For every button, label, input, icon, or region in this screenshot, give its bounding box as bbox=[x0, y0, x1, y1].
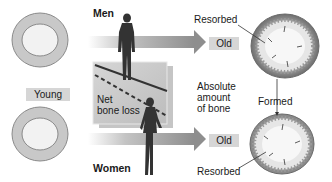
resorbed-label-bottom: Resorbed bbox=[197, 166, 240, 177]
formed-label: Formed bbox=[258, 96, 292, 107]
old-bone-top bbox=[251, 14, 319, 78]
young-tag: Young bbox=[26, 88, 70, 101]
net-bone-loss-line1: Net bbox=[97, 94, 113, 105]
absolute-amount-line1: Absolute bbox=[197, 81, 236, 92]
resorbed-label-top: Resorbed bbox=[194, 14, 237, 25]
women-label: Women bbox=[93, 163, 131, 174]
absolute-amount-line2: amount bbox=[197, 92, 230, 103]
old-tag-bottom: Old bbox=[209, 134, 239, 147]
net-bone-loss-line2: bone loss bbox=[97, 105, 140, 116]
absolute-amount-line3: of bone bbox=[197, 103, 230, 114]
old-bone-bottom bbox=[250, 114, 314, 174]
men-label: Men bbox=[93, 8, 114, 19]
old-tag-top: Old bbox=[209, 37, 239, 50]
young-bone-bottom bbox=[12, 107, 68, 161]
young-bone-top bbox=[12, 13, 68, 67]
men-arrow bbox=[88, 30, 206, 54]
